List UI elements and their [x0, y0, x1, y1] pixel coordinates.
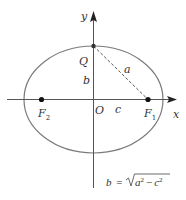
svg-text:a2−c2: a2−c2 [135, 176, 163, 188]
semi-minor-b-label: b [83, 74, 90, 87]
formula: b = a2−c2 [106, 174, 170, 188]
focal-distance-c-label: c [115, 103, 121, 116]
focus-f2 [39, 97, 44, 102]
focus-f1-label: F1 [143, 107, 156, 122]
x-axis-label: x [173, 108, 180, 121]
focus-f2-label: F2 [37, 107, 50, 122]
ellipse-diagram: y x Q b a O c F2 F1 b = a2−c2 [0, 0, 186, 200]
hypotenuse-a-label: a [124, 63, 131, 76]
point-q [91, 44, 95, 48]
svg-text:b =: b = [106, 176, 122, 188]
origin-label: O [95, 104, 104, 117]
y-axis-label: y [80, 10, 88, 23]
segment-a [94, 46, 149, 100]
focus-f1 [145, 97, 150, 102]
point-q-label: Q [79, 55, 88, 68]
